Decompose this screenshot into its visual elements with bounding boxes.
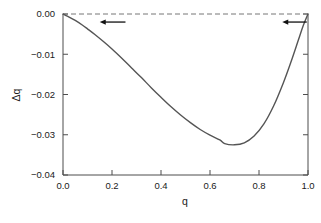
data-series-curve — [63, 14, 308, 145]
x-tick-label: 0.4 — [154, 180, 167, 191]
x-axis-ticks — [63, 170, 308, 175]
y-tick-label: −0.03 — [31, 129, 55, 140]
x-tick-label: 0.6 — [203, 180, 216, 191]
x-tick-label: 1.0 — [301, 180, 314, 191]
plot-canvas: 0.00−0.01−0.02−0.03−0.04 0.00.20.40.60.8… — [0, 0, 321, 223]
y-tick-label: −0.04 — [31, 169, 55, 180]
y-axis-title: Δq — [10, 88, 22, 101]
y-axis-tick-labels: 0.00−0.01−0.02−0.03−0.04 — [31, 8, 55, 180]
left-arrow-icon — [100, 19, 126, 24]
left-arrow-icon — [282, 19, 307, 24]
x-axis-tick-labels: 0.00.20.40.60.81.0 — [56, 180, 314, 191]
x-tick-label: 0.0 — [56, 180, 69, 191]
annotation-arrows — [100, 19, 307, 24]
x-tick-label: 0.8 — [252, 180, 265, 191]
y-tick-label: −0.02 — [31, 89, 55, 100]
x-tick-label: 0.2 — [105, 180, 118, 191]
x-axis-title: q — [182, 195, 188, 207]
y-tick-label: 0.00 — [37, 8, 56, 19]
chart-figure: 0.00−0.01−0.02−0.03−0.04 0.00.20.40.60.8… — [0, 0, 321, 223]
y-tick-label: −0.01 — [31, 49, 55, 60]
